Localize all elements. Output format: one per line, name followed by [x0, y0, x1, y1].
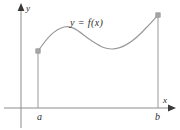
endpoint-marker-b — [156, 13, 160, 17]
x-axis-label: x — [163, 96, 167, 105]
curve-equation-label: y = f(x) — [70, 18, 103, 28]
figure-graph-of-function: y x a b y = f(x) — [0, 0, 180, 130]
x-tick-label-a: a — [37, 112, 42, 122]
endpoint-marker-a — [36, 49, 40, 53]
x-axis-arrowhead-icon — [168, 105, 176, 112]
y-axis-label: y — [26, 4, 30, 13]
y-axis-arrowhead-icon — [18, 3, 25, 11]
x-tick-label-b: b — [155, 112, 160, 122]
